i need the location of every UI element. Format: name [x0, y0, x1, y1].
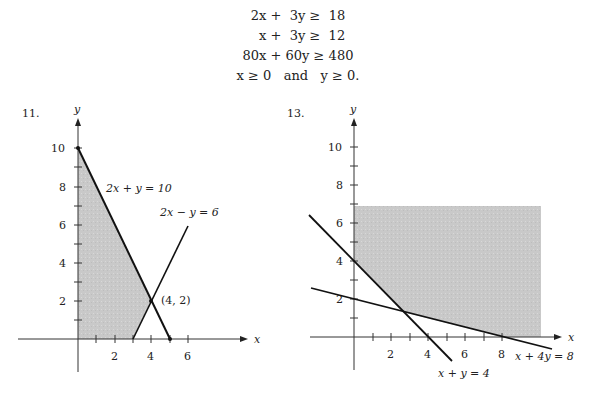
feasible-region	[354, 206, 541, 337]
x-axis-arrow-icon	[554, 334, 562, 340]
chart-11-number: 11.	[22, 107, 40, 120]
x-tick-2: 2	[387, 348, 394, 361]
y-axis-label: y	[73, 103, 81, 116]
vertex-point	[76, 146, 80, 150]
x-tick-4: 4	[424, 348, 431, 361]
x-axis-arrow-icon	[240, 336, 248, 342]
y-axis-arrow-icon	[75, 118, 81, 126]
vertex-point	[168, 337, 172, 341]
line-label-x-plus-4y: x + 4y = 8	[515, 350, 574, 363]
point-label-4-2: (4, 2)	[161, 294, 191, 307]
x-tick-4: 4	[147, 350, 154, 363]
y-tick-4: 4	[336, 255, 343, 268]
chart-11: 11. x y 2 4 6	[18, 103, 261, 372]
x-axis-label: x	[568, 331, 575, 344]
y-tick-8: 8	[59, 181, 66, 194]
line-label-2x-minus-y: 2x − y = 6	[159, 206, 219, 219]
x-tick-8: 8	[498, 348, 505, 361]
x-tick-2: 2	[111, 350, 118, 363]
y-tick-8: 8	[336, 179, 343, 192]
y-axis-label: y	[349, 103, 357, 116]
chart-13-number: 13.	[287, 107, 305, 120]
figure-canvas: 11. x y 2 4 6	[0, 0, 596, 393]
y-tick-4: 4	[59, 257, 66, 270]
y-tick-10: 10	[51, 142, 65, 155]
y-tick-6: 6	[336, 217, 343, 230]
y-tick-10: 10	[328, 141, 342, 154]
chart-13: 13. x y 2 4 6 8	[287, 103, 575, 380]
feasible-region	[78, 148, 151, 339]
x-tick-6: 6	[461, 348, 468, 361]
y-axis-arrow-icon	[351, 118, 357, 126]
y-tick-2: 2	[59, 295, 66, 308]
vertex-point	[149, 299, 153, 303]
line-label-2x-plus-y: 2x + y = 10	[105, 182, 172, 195]
x-axis-label: x	[254, 333, 261, 346]
line-label-x-plus-y: x + y = 4	[438, 367, 490, 380]
x-tick-6: 6	[184, 350, 191, 363]
y-tick-6: 6	[59, 219, 66, 232]
